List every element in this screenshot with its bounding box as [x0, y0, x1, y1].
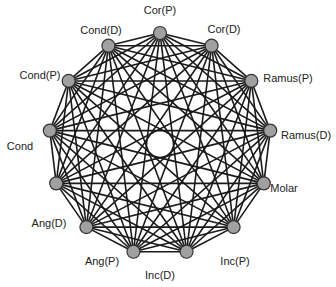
node-label: Cor(D) — [208, 23, 241, 35]
complete-graph-diagram: Cor(P)Cor(D)Ramus(P)Ramus(D)MolarInc(P)I… — [0, 0, 336, 287]
graph-node — [227, 221, 240, 234]
graph-node — [127, 245, 140, 258]
graph-node — [180, 245, 193, 258]
graph-node — [102, 39, 115, 52]
graph-node — [154, 27, 167, 40]
node-label: Cond(P) — [20, 69, 61, 81]
graph-canvas — [0, 0, 336, 287]
graph-node — [50, 177, 63, 190]
node-label: Inc(D) — [145, 269, 175, 281]
graph-node — [43, 124, 56, 137]
graph-node — [264, 124, 277, 137]
graph-node — [80, 221, 93, 234]
node-label: Ramus(P) — [263, 72, 313, 84]
node-label: Cond — [7, 140, 33, 152]
node-label: Molar — [270, 182, 298, 194]
graph-node — [62, 74, 75, 87]
node-label: Cor(P) — [144, 4, 176, 16]
node-label: Ramus(D) — [281, 129, 331, 141]
graph-node — [245, 74, 258, 87]
node-label: Cond(D) — [80, 24, 122, 36]
node-label: Ang(P) — [85, 255, 119, 267]
node-label: Inc(P) — [220, 255, 249, 267]
graph-node — [205, 39, 218, 52]
graph-node — [257, 177, 270, 190]
node-label: Ang(D) — [32, 217, 67, 229]
